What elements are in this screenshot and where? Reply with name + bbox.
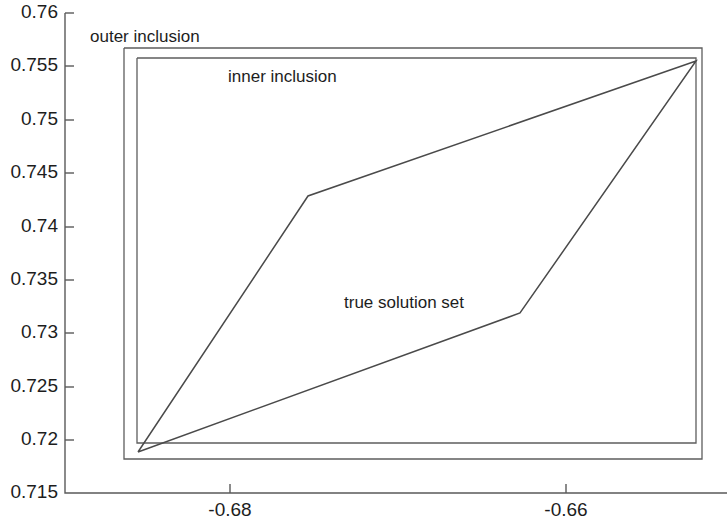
y-tick-label: 0.76 (21, 1, 58, 22)
y-tick-label: 0.715 (10, 481, 58, 502)
y-tick-label: 0.75 (21, 108, 58, 129)
inclusion-plot-svg: 0.76 0.755 0.75 0.745 0.74 0.735 0.73 0.… (0, 0, 727, 524)
inner-inclusion-label: inner inclusion (228, 67, 337, 86)
x-tick-label: -0.68 (208, 499, 251, 520)
y-tick-label: 0.74 (21, 215, 58, 236)
true-solution-set-label: true solution set (344, 293, 464, 312)
y-tick-label: 0.72 (21, 428, 58, 449)
x-tick-label: -0.66 (544, 499, 587, 520)
outer-inclusion-label: outer inclusion (90, 27, 200, 46)
y-tick-label: 0.755 (10, 54, 58, 75)
plot-background (0, 0, 727, 524)
y-tick-label: 0.73 (21, 321, 58, 342)
chart-figure: 0.76 0.755 0.75 0.745 0.74 0.735 0.73 0.… (0, 0, 727, 524)
y-tick-label: 0.725 (10, 375, 58, 396)
y-tick-label: 0.745 (10, 161, 58, 182)
y-tick-label: 0.735 (10, 268, 58, 289)
